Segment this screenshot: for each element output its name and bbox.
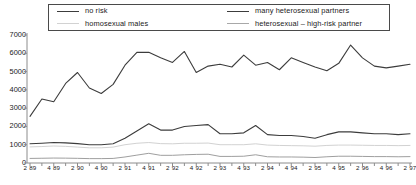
legend-label-many-heterosexual-partners: many heterosexual partners: [255, 7, 349, 15]
x-tick-label: 4 93: [237, 164, 250, 171]
x-tick-label: 2 96: [356, 164, 369, 171]
series-line-many-heterosexual-partners: [30, 124, 410, 145]
x-tick-label: 4 96: [380, 164, 393, 171]
series-line-heterosexual-high-risk-partner: [30, 153, 410, 158]
legend-label-heterosexual-high-risk-partner: heterosexual – high-risk partner: [255, 20, 362, 28]
legend-item-no-risk: no risk: [49, 5, 219, 18]
legend-swatch-many-heterosexual-partners: [227, 11, 249, 12]
x-tick-label: 2 93: [214, 164, 227, 171]
x-tick-label: 2 94: [261, 164, 274, 171]
legend-label-no-risk: no risk: [85, 7, 107, 15]
legend-label-homosexual-males: homosexual males: [85, 20, 148, 28]
legend-swatch-heterosexual-high-risk-partner: [227, 23, 249, 24]
x-tick-label: 4 92: [190, 164, 203, 171]
series-line-homosexual-males: [30, 143, 410, 148]
x-axis: 2 894 892 904 902 914 912 924 922 934 93…: [30, 164, 412, 178]
x-tick-label: 2 89: [24, 164, 37, 171]
plot-area: 01000200030004000500060007000 2 894 892 …: [0, 28, 414, 185]
x-tick-label: 2 95: [309, 164, 322, 171]
x-tick-label: 2 97: [404, 164, 416, 171]
x-tick-label: 2 90: [71, 164, 84, 171]
plot-canvas: [0, 28, 414, 178]
series-line-no-risk: [30, 45, 410, 116]
x-tick-label: 4 94: [285, 164, 298, 171]
x-tick-label: 4 91: [142, 164, 155, 171]
legend-item-many-heterosexual-partners: many heterosexual partners: [219, 5, 389, 18]
legend-swatch-homosexual-males: [57, 23, 79, 24]
x-tick-label: 4 95: [332, 164, 345, 171]
x-tick-label: 4 89: [47, 164, 60, 171]
x-tick-label: 4 90: [95, 164, 108, 171]
x-tick-label: 2 91: [119, 164, 132, 171]
legend-swatch-no-risk: [57, 11, 79, 12]
chart-legend: no risk many heterosexual partners homos…: [48, 4, 390, 31]
x-tick-label: 2 92: [166, 164, 179, 171]
